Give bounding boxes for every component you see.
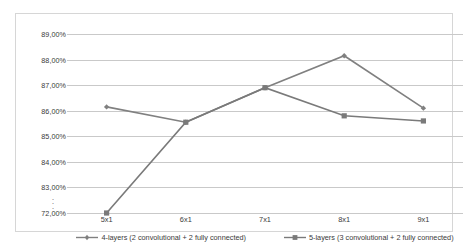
y-tick-label: 83,00%: [41, 183, 66, 192]
y-tick-label: 84,00%: [41, 157, 66, 166]
y-tick-label: 87,00%: [41, 81, 66, 90]
y-axis: 89,00%88,00%87,00%86,00%85,00%84,00%83,0…: [32, 34, 66, 213]
y-axis-break-marker: ...: [52, 196, 54, 209]
series-line: [107, 88, 424, 213]
plot-area: [67, 34, 463, 213]
legend-item-2[interactable]: 5-layers (3 convolutional + 2 fully conn…: [284, 233, 454, 242]
legend-square-marker-icon: [284, 233, 306, 242]
gridline: [67, 213, 463, 214]
data-point-marker: [183, 120, 188, 125]
x-tick-label: 8x1: [338, 215, 350, 224]
chart-legend: 4-layers (2 convolutional + 2 fully conn…: [67, 231, 463, 243]
x-tick-label: 7x1: [259, 215, 271, 224]
y-tick-label: 89,00%: [41, 30, 66, 39]
x-tick-label: 9x1: [417, 215, 429, 224]
x-tick-label: 5x1: [101, 215, 113, 224]
y-tick-label: 88,00%: [41, 55, 66, 64]
legend-item-1[interactable]: 4-layers (2 convolutional + 2 fully conn…: [76, 233, 246, 242]
chart-frame: 89,00%88,00%87,00%86,00%85,00%84,00%83,0…: [15, 13, 453, 232]
data-point-marker: [104, 104, 109, 109]
y-tick-label: 85,00%: [41, 132, 66, 141]
legend-label: 5-layers (3 convolutional + 2 fully conn…: [309, 233, 454, 242]
plot-series-svg: [67, 34, 463, 213]
data-point-marker: [262, 85, 267, 90]
x-tick-label: 6x1: [180, 215, 192, 224]
legend-label: 4-layers (2 convolutional + 2 fully conn…: [101, 233, 246, 242]
series-2: [104, 85, 426, 216]
x-axis: 5x16x17x18x19x1: [67, 215, 463, 229]
data-point-marker: [342, 113, 347, 118]
legend-diamond-marker-icon: [76, 233, 98, 242]
data-point-marker: [421, 118, 426, 123]
y-tick-label: 86,00%: [41, 106, 66, 115]
